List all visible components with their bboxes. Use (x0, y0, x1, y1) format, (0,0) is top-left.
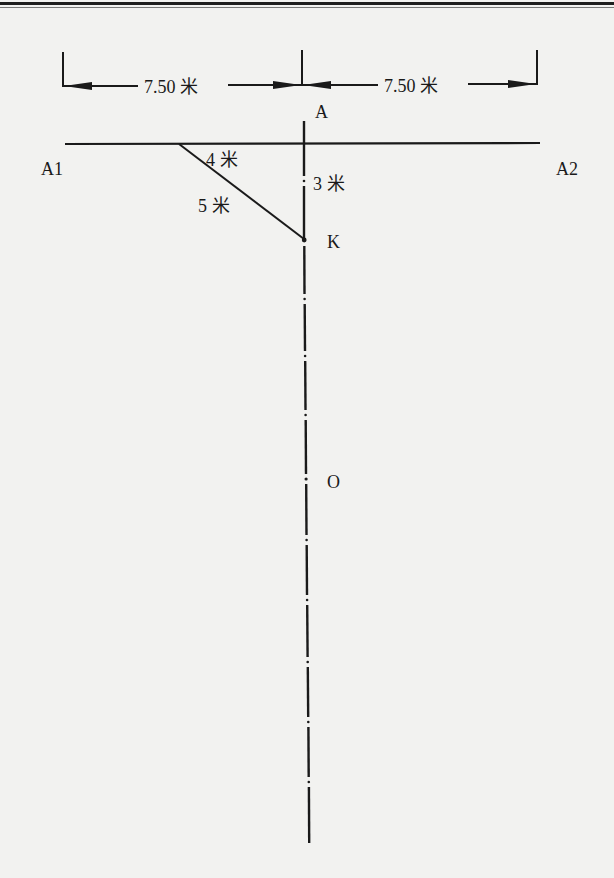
left-dimension: 7.50 米 (64, 77, 301, 97)
hypotenuse-line (179, 144, 304, 239)
point-o-marker (305, 477, 308, 480)
leg-4m-label: 4 米 (206, 150, 238, 170)
center-axis-line (302, 121, 310, 843)
point-a1-label: A1 (41, 159, 63, 179)
leg-3m-label: 3 米 (313, 174, 345, 194)
left-dimension-label: 7.50 米 (144, 77, 198, 97)
point-a-label: A (315, 102, 328, 122)
diagram-page: 7.50 米 7.50 米 (0, 0, 614, 878)
dimension-ticks (63, 50, 537, 87)
right-dimension-label: 7.50 米 (384, 76, 438, 96)
hypotenuse-5m-label: 5 米 (198, 196, 230, 216)
point-o-label: O (327, 472, 340, 492)
baseline-a1-a2 (65, 143, 540, 144)
point-a2-label: A2 (556, 159, 578, 179)
survey-diagram: 7.50 米 7.50 米 (0, 0, 614, 878)
right-dimension: 7.50 米 (303, 76, 536, 96)
point-k-label: K (327, 232, 340, 252)
